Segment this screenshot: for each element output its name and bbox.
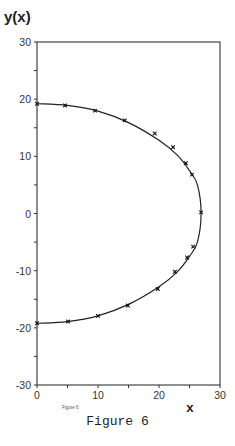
y-tick-label: -20 bbox=[16, 322, 31, 334]
y-tick-label: -30 bbox=[16, 379, 31, 391]
chart-plot: y(x) 3020100-10-20-300102030 Figure 6 x bbox=[0, 0, 235, 412]
y-tick-label: 10 bbox=[19, 150, 31, 162]
data-markers bbox=[35, 102, 203, 325]
figure-caption: Figure 6 bbox=[0, 414, 235, 429]
x-tick-label: 20 bbox=[153, 389, 165, 401]
inner-figure-label: Figure 6 bbox=[62, 405, 79, 410]
y-tick-label: 30 bbox=[19, 36, 31, 48]
x-tick-label: 0 bbox=[34, 389, 40, 401]
y-tick-label: -10 bbox=[16, 265, 31, 277]
x-tick-label: 30 bbox=[214, 389, 226, 401]
plot-frame bbox=[37, 42, 220, 385]
x-tick-label: 10 bbox=[92, 389, 104, 401]
fit-curve bbox=[37, 104, 201, 324]
data-point-marker bbox=[153, 132, 157, 136]
y-axis-label: y(x) bbox=[4, 8, 31, 25]
data-point-marker bbox=[171, 145, 175, 149]
x-axis-label: x bbox=[186, 401, 194, 412]
y-tick-label: 0 bbox=[25, 208, 31, 220]
axis-ticks: 3020100-10-20-300102030 bbox=[16, 36, 226, 401]
data-point-marker bbox=[173, 270, 177, 274]
y-tick-label: 20 bbox=[19, 93, 31, 105]
data-point-marker bbox=[191, 245, 195, 249]
